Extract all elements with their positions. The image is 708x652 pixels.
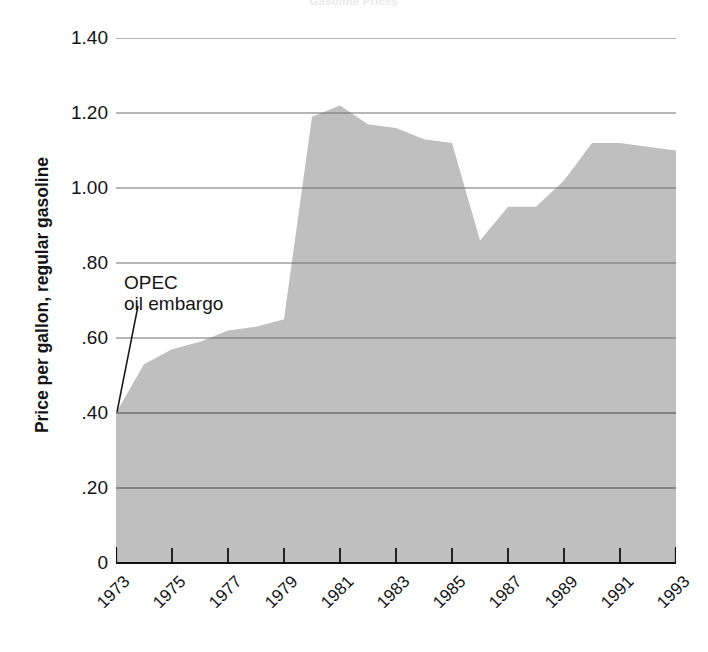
y-tick-label: 1.40 (46, 28, 108, 47)
y-tick-label: .80 (46, 253, 108, 272)
y-tick-label: .40 (46, 403, 108, 422)
annotation-line-1: OPEC (124, 272, 178, 293)
y-tick-label: 1.00 (46, 178, 108, 197)
area-series-gasoline-price (116, 106, 676, 564)
x-tick-label: 1979 (251, 572, 302, 623)
y-tick-label: 1.20 (46, 103, 108, 122)
y-axis-tick-labels: 1.401.201.00.80.60.40.200 (38, 0, 108, 652)
y-tick-label: .20 (46, 478, 108, 497)
chart-figure: Gasoline Prices Price per gallon, regula… (0, 0, 708, 652)
x-tick-label: 1991 (587, 572, 638, 623)
x-tick-label: 1981 (307, 572, 358, 623)
y-tick-label: 0 (46, 553, 108, 572)
x-tick-label: 1983 (363, 572, 414, 623)
x-tick-label: 1993 (643, 572, 694, 623)
y-tick-label: .60 (46, 328, 108, 347)
x-tick-label: 1975 (139, 572, 190, 623)
annotation-line-2: oil embargo (124, 293, 223, 314)
x-tick-label: 1985 (419, 572, 470, 623)
x-tick-label: 1987 (475, 572, 526, 623)
x-tick-label: 1977 (195, 572, 246, 623)
annotation-opec-oil-embargo: OPEC oil embargo (124, 272, 223, 315)
x-tick-label: 1989 (531, 572, 582, 623)
